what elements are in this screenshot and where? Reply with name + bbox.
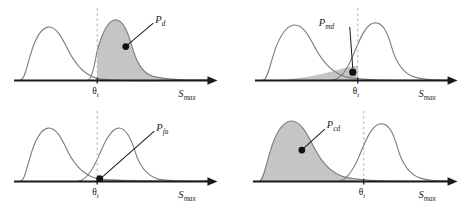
curve-signal-pcd: [338, 124, 450, 181]
axis-arrowhead-pcd: [447, 178, 457, 186]
panel-pcd: Pcd θt Smax: [237, 101, 473, 203]
axis-label-pcd: Smax: [418, 189, 436, 203]
curve-noise-pfa: [20, 128, 210, 181]
label-pfa: Pfa: [155, 122, 168, 136]
axis-label-pd: Smax: [178, 88, 196, 101]
panel-pfa-plot: Pfa θt Smax: [0, 101, 237, 203]
axis-arrowhead-pmd: [447, 76, 457, 84]
panel-pd-plot: Pd θt Smax: [0, 0, 237, 101]
threshold-label-pmd: θt: [352, 86, 360, 98]
axis-label-pmd: Smax: [418, 88, 436, 101]
axis-label-pfa: Smax: [178, 189, 196, 203]
shaded-area-pd: [97, 20, 210, 80]
callout-dot-pmd: [349, 69, 356, 76]
leader-line-pfa: [102, 131, 154, 177]
label-pd: Pd: [154, 14, 165, 28]
panel-pmd: Pmd θt Smax: [237, 0, 473, 101]
threshold-label-pcd: θt: [358, 187, 366, 199]
shaded-area-pcd: [258, 121, 363, 181]
axis-arrowhead-pfa: [207, 178, 217, 186]
panel-pmd-plot: Pmd θt Smax: [237, 0, 473, 101]
detection-theory-figure: Pd θt Smax: [0, 0, 473, 203]
panel-pd: Pd θt Smax: [0, 0, 237, 101]
label-pcd: Pcd: [325, 119, 340, 133]
label-pmd: Pmd: [317, 17, 334, 31]
callout-dot-pcd: [298, 147, 305, 154]
threshold-label-pd: θt: [92, 86, 100, 98]
panel-pcd-plot: Pcd θt Smax: [237, 101, 473, 203]
panel-pfa: Pfa θt Smax: [0, 101, 237, 203]
threshold-label-pfa: θt: [92, 187, 100, 199]
callout-dot-pfa: [96, 175, 103, 182]
axis-arrowhead-pd: [207, 76, 217, 84]
panel-grid: Pd θt Smax: [0, 0, 473, 203]
leader-line-pd: [127, 23, 153, 45]
curve-signal-pfa: [78, 128, 210, 181]
callout-dot-pd: [122, 43, 129, 50]
